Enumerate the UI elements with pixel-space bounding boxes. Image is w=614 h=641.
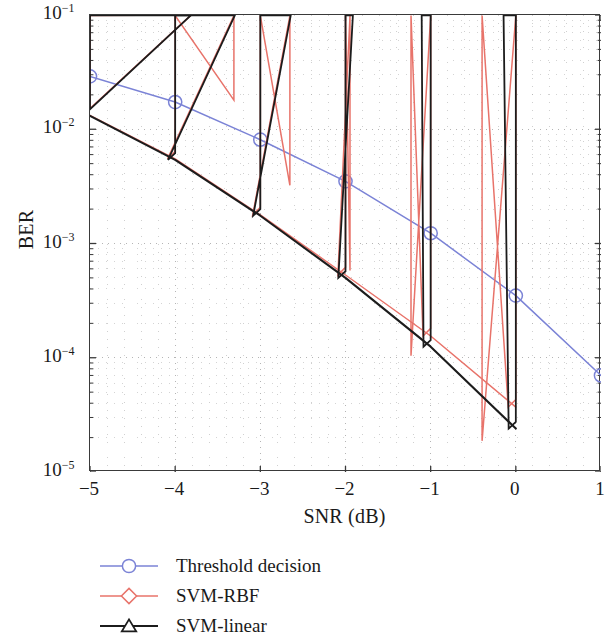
- data-series-layer: [90, 15, 601, 441]
- legend-marker-triangle-icon: [96, 613, 162, 639]
- legend-marker-circle-icon: [96, 553, 162, 579]
- series-svm-linear: [90, 15, 516, 428]
- data-point-marker: [253, 15, 291, 216]
- y-tick-label: 10−1: [0, 2, 84, 24]
- y-tick-label: 10−3: [0, 231, 84, 253]
- y-tick-label: 10−4: [0, 345, 84, 367]
- series-svm-rbf: [90, 15, 516, 441]
- x-tick-label: −3: [229, 478, 289, 500]
- data-point-marker: [411, 16, 431, 356]
- plot-area: [89, 14, 600, 471]
- legend-item[interactable]: SVM-RBF: [96, 581, 496, 611]
- legend-item[interactable]: Threshold decision: [96, 551, 496, 581]
- x-tick-label: −2: [315, 478, 375, 500]
- legend-item[interactable]: SVM-linear: [96, 611, 496, 641]
- data-point-marker: [338, 16, 350, 275]
- legend-label: SVM-linear: [162, 615, 267, 637]
- data-point-marker: [482, 16, 516, 441]
- legend-marker-diamond-icon: [96, 583, 162, 609]
- ber-vs-snr-figure: 10−1 10−2 10−3 10−4 10−5 −5−4−3−2−101 BE…: [0, 0, 614, 641]
- legend: Threshold decisionSVM-RBFSVM-linear: [96, 551, 496, 641]
- plot-canvas: [90, 15, 601, 472]
- x-axis-label: SNR (dB): [89, 505, 600, 528]
- y-axis-label: BER: [15, 170, 38, 290]
- data-point-marker: [422, 15, 431, 347]
- x-tick-label: 0: [485, 478, 545, 500]
- legend-label: Threshold decision: [162, 555, 321, 577]
- y-tick-label: 10−2: [0, 116, 84, 138]
- legend-label: SVM-RBF: [162, 585, 259, 607]
- x-tick-label: 1: [570, 478, 614, 500]
- x-tick-label: −5: [59, 478, 119, 500]
- x-tick-label: −1: [400, 478, 460, 500]
- x-tick-label: −4: [144, 478, 204, 500]
